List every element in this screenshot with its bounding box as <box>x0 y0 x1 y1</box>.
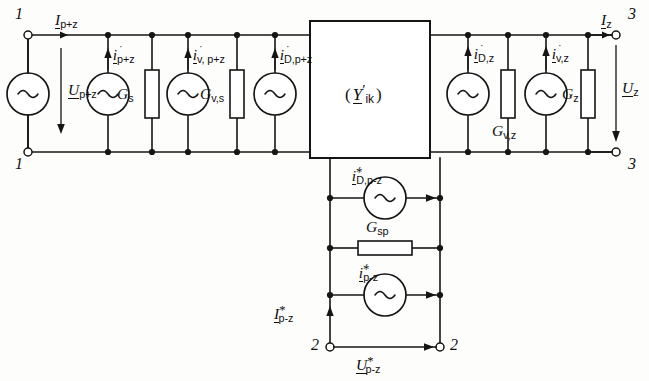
label-U-z-sym: U <box>622 81 633 97</box>
label-I-star-p-minus-z: I*p-z <box>274 304 293 324</box>
node-dot-icon-bsp-right <box>437 245 443 251</box>
node-label-3-top: 3 <box>628 6 636 22</box>
terminal-icon-1-bottom[interactable] <box>24 148 32 156</box>
dot-accent-i-star-D-p-minus-z: ˙ <box>358 164 362 176</box>
label-i-v-p-plus-z: ˙iv, p+z <box>196 47 225 65</box>
label-I-star-p-minus-z-sub: p-z <box>279 312 294 324</box>
node-label-1-bottom: 1 <box>15 156 23 172</box>
node-dot-icon-lb3-bot <box>185 149 191 155</box>
label-G-v-z-sym: G <box>492 122 503 139</box>
arrow-icon-i-v-pz <box>184 48 191 58</box>
node-dot-icon-bs2-right <box>437 292 443 298</box>
node-label-2-right: 2 <box>450 337 458 353</box>
node-dot-icon-rb1-top <box>465 32 471 38</box>
resistor-icon-Gsp <box>358 241 412 255</box>
label-G-v-z: Gv,z <box>492 123 516 141</box>
dot-accent-i-D-z: ˙ <box>480 42 484 54</box>
circuit-diagram: 1 1 3 3 2 2 Ip+z Up+z ˙ip+z Gs ˙iv, p+z … <box>0 0 649 381</box>
node-dot-icon-rb2-bot <box>505 149 511 155</box>
dot-accent-i-D-p-plus-z: ˙ <box>286 43 290 55</box>
dot-accent-i-p-plus-z: ˙ <box>119 43 123 55</box>
node-dot-icon-lb2-top <box>149 32 155 38</box>
dot-accent-i-v-p-plus-z: ˙ <box>199 43 203 55</box>
label-U-z: Uz <box>622 80 639 98</box>
node-dot-icon-bs1-left <box>327 195 333 201</box>
resistor-icon-Gvz <box>501 70 515 118</box>
node-dot-icon-lb3-top <box>185 32 191 38</box>
block-symbol-Y: Y <box>353 87 362 104</box>
node-dot-icon-lb4-top <box>234 32 240 38</box>
arrow-icon-i-D-p-z <box>426 194 436 201</box>
label-G-z: Gz <box>562 86 579 104</box>
label-U-star-p-minus-z: U*p-z <box>356 355 380 375</box>
label-G-v-s-sub: v,s <box>211 92 224 104</box>
terminal-icon-2-right[interactable] <box>436 343 444 351</box>
label-G-z-sym: G <box>562 85 573 102</box>
arrow-icon-U-z <box>612 131 620 142</box>
label-G-v-s: Gv,s <box>200 86 224 104</box>
node-dot-icon-bs2-left <box>327 292 333 298</box>
block-paren-close: ) <box>376 85 382 104</box>
label-G-v-s-sym: G <box>200 85 211 102</box>
arrow-icon-i-v-z <box>542 46 549 56</box>
label-G-sp-sub: sp <box>377 225 388 237</box>
label-U-p-plus-z: Up+z <box>68 82 97 100</box>
node-dot-icon-rb2-top <box>505 32 511 38</box>
block-sub-ik: ik <box>366 92 374 106</box>
arrow-icon-U-p-z <box>424 343 434 350</box>
node-dot-icon-rb3-bot <box>543 149 549 155</box>
node-dot-icon-lb1-bot <box>105 149 111 155</box>
label-I-p-plus-z-sub: p+z <box>60 18 78 30</box>
node-dot-icon-rb3-top <box>543 32 549 38</box>
label-i-star-D-p-minus-z: ˙i*D,p-z <box>355 166 382 186</box>
label-G-v-z-sub: v,z <box>503 129 516 141</box>
admittance-block-label: (Y′ik) <box>345 82 382 106</box>
node-dot-icon-lb1-top <box>105 32 111 38</box>
resistor-icon-Gs <box>145 70 159 118</box>
terminal-icon-3-bottom[interactable] <box>612 148 620 156</box>
arrow-icon-i-D-z <box>464 46 471 56</box>
node-label-3-bottom: 3 <box>628 156 636 172</box>
label-U-z-sub: z <box>633 86 638 98</box>
terminal-icon-2-left[interactable] <box>326 343 334 351</box>
label-G-s-sym: G <box>117 85 128 102</box>
label-G-z-sub: z <box>573 92 578 104</box>
label-i-p-plus-z: ˙ip+z <box>116 47 134 65</box>
label-G-sp-sym: G <box>366 218 377 235</box>
label-U-p-plus-z-sub: p+z <box>79 88 97 100</box>
label-i-v-z: ˙iv,z <box>555 46 569 64</box>
label-I-z-sub: z <box>606 18 611 30</box>
arrow-icon-I-p-z <box>326 306 333 316</box>
label-G-s: Gs <box>117 86 134 104</box>
node-dot-icon-bs1-right <box>437 195 443 201</box>
node-dot-icon-rb1-bot <box>465 149 471 155</box>
node-label-1-top: 1 <box>15 6 23 22</box>
arrow-icon-i-pz <box>104 48 111 58</box>
node-label-2-left: 2 <box>311 337 319 353</box>
node-dot-icon-lb2-bot <box>149 149 155 155</box>
block-paren-open: ( <box>345 85 351 104</box>
label-I-p-plus-z: Ip+z <box>55 12 78 30</box>
terminal-icon-1-top[interactable] <box>24 31 32 39</box>
arrow-icon-I-pz <box>60 32 68 39</box>
arrow-icon-i-D-pz <box>271 48 278 58</box>
terminal-icon-3-top[interactable] <box>612 31 620 39</box>
node-dot-icon-lb4-bot <box>234 149 240 155</box>
label-i-star-p-minus-z: ˙i*p-z <box>362 263 378 283</box>
resistor-icon-Gz <box>581 70 595 118</box>
node-dot-icon-lb5-bot <box>272 149 278 155</box>
dot-accent-i-v-z: ˙ <box>558 42 562 54</box>
label-i-D-z: ˙iD,z <box>477 46 494 64</box>
label-U-p-plus-z-sym: U <box>68 83 79 99</box>
node-dot-icon-lb5-top <box>272 32 278 38</box>
label-I-z: Iz <box>601 12 612 30</box>
arrow-icon-U-pz <box>57 124 65 134</box>
arrow-icon-I-z <box>602 32 610 39</box>
arrow-icon-i-p-z <box>426 291 436 298</box>
label-G-sp: Gsp <box>366 219 388 237</box>
label-G-s-sub: s <box>128 92 133 104</box>
dot-accent-i-star-p-minus-z: ˙ <box>365 261 369 273</box>
node-dot-icon-bsp-left <box>327 245 333 251</box>
label-U-star-p-minus-z-sub: p-z <box>366 363 381 375</box>
resistor-icon-Gvs <box>230 70 244 118</box>
